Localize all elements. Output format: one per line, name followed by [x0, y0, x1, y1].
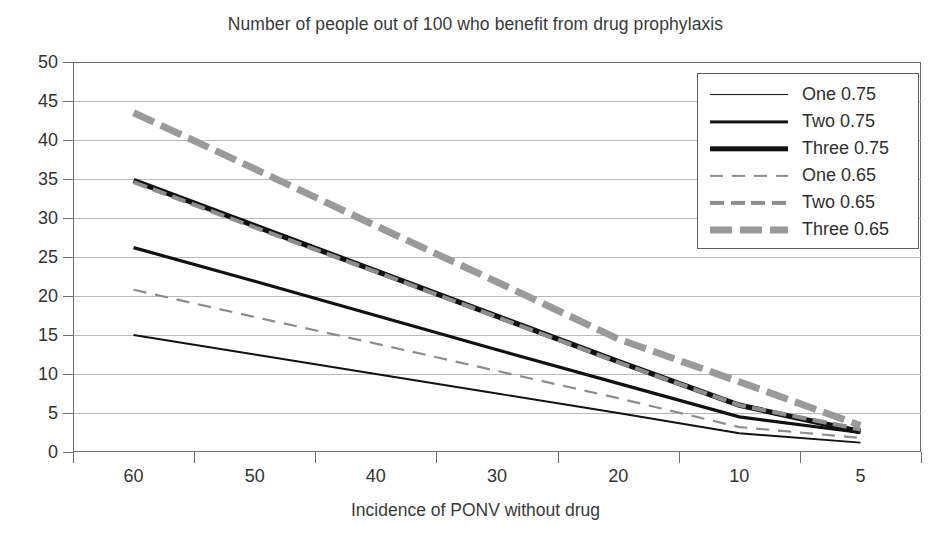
- legend-item[interactable]: Three 0.65: [698, 216, 918, 243]
- x-tick-mark: [315, 452, 316, 463]
- legend-item[interactable]: Three 0.75: [698, 135, 918, 162]
- legend-item[interactable]: Two 0.75: [698, 108, 918, 135]
- legend-line-icon: [710, 114, 788, 130]
- y-tick-mark: [63, 140, 74, 141]
- legend-item-label: Two 0.65: [802, 192, 875, 213]
- legend-item[interactable]: One 0.65: [698, 162, 918, 189]
- legend-line-icon: [710, 168, 788, 184]
- x-tick-label: 40: [366, 466, 386, 487]
- legend-item[interactable]: One 0.75: [698, 81, 918, 108]
- y-tick-label: 5: [0, 403, 58, 424]
- y-tick-mark: [63, 296, 74, 297]
- gridline: [73, 296, 921, 297]
- legend-line-icon: [710, 222, 788, 238]
- x-tick-label: 60: [124, 466, 144, 487]
- gridline: [73, 335, 921, 336]
- y-tick-mark: [63, 101, 74, 102]
- x-tick-label: 5: [855, 466, 865, 487]
- x-tick-mark: [73, 452, 74, 463]
- x-tick-label: 20: [608, 466, 628, 487]
- y-tick-mark: [63, 218, 74, 219]
- y-tick-label: 50: [0, 52, 58, 73]
- x-tick-mark: [800, 452, 801, 463]
- chart-container: Number of people out of 100 who benefit …: [0, 0, 951, 548]
- y-tick-label: 25: [0, 247, 58, 268]
- x-tick-mark: [921, 452, 922, 463]
- y-tick-label: 45: [0, 91, 58, 112]
- y-tick-label: 10: [0, 364, 58, 385]
- chart-title: Number of people out of 100 who benefit …: [0, 14, 951, 35]
- y-tick-label: 15: [0, 325, 58, 346]
- legend-item-label: Two 0.75: [802, 111, 875, 132]
- legend-line-icon: [710, 141, 788, 157]
- y-tick-mark: [63, 374, 74, 375]
- x-tick-mark: [194, 452, 195, 463]
- legend-item-label: One 0.75: [802, 84, 876, 105]
- legend-line-icon: [710, 87, 788, 103]
- y-tick-mark: [63, 179, 74, 180]
- gridline: [73, 257, 921, 258]
- legend-item-label: One 0.65: [802, 165, 876, 186]
- y-tick-mark: [63, 335, 74, 336]
- legend-item-label: Three 0.65: [802, 219, 889, 240]
- x-tick-label: 30: [487, 466, 507, 487]
- legend-line-icon: [710, 195, 788, 211]
- chart-legend: One 0.75Two 0.75Three 0.75One 0.65Two 0.…: [697, 73, 919, 249]
- y-tick-mark: [63, 62, 74, 63]
- y-tick-label: 0: [0, 442, 58, 463]
- x-tick-label: 10: [729, 466, 749, 487]
- y-tick-label: 35: [0, 169, 58, 190]
- y-tick-label: 40: [0, 130, 58, 151]
- x-axis-title: Incidence of PONV without drug: [0, 500, 951, 521]
- gridline: [73, 374, 921, 375]
- y-tick-label: 20: [0, 286, 58, 307]
- legend-item-label: Three 0.75: [802, 138, 889, 159]
- x-tick-mark: [436, 452, 437, 463]
- y-tick-label: 30: [0, 208, 58, 229]
- x-tick-mark: [679, 452, 680, 463]
- x-tick-label: 50: [245, 466, 265, 487]
- x-tick-mark: [558, 452, 559, 463]
- gridline: [73, 413, 921, 414]
- legend-item[interactable]: Two 0.65: [698, 189, 918, 216]
- y-tick-mark: [63, 257, 74, 258]
- y-tick-mark: [63, 413, 74, 414]
